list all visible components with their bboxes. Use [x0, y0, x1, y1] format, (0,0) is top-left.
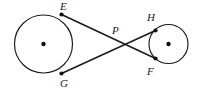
point-dot-f: [153, 56, 157, 60]
point-dot-h: [153, 28, 157, 32]
point-label-h: H: [147, 12, 155, 23]
point-label-e: E: [60, 1, 67, 12]
point-label-p: P: [112, 25, 119, 36]
geometry-figure: E G P H F: [0, 0, 198, 92]
small-circle-center-dot: [166, 42, 170, 46]
point-label-g: G: [60, 78, 68, 89]
point-dot-g: [59, 71, 63, 75]
point-label-f: F: [147, 66, 154, 77]
large-circle-center-dot: [41, 42, 45, 46]
figure-canvas: [0, 0, 198, 92]
point-dot-e: [59, 12, 63, 16]
